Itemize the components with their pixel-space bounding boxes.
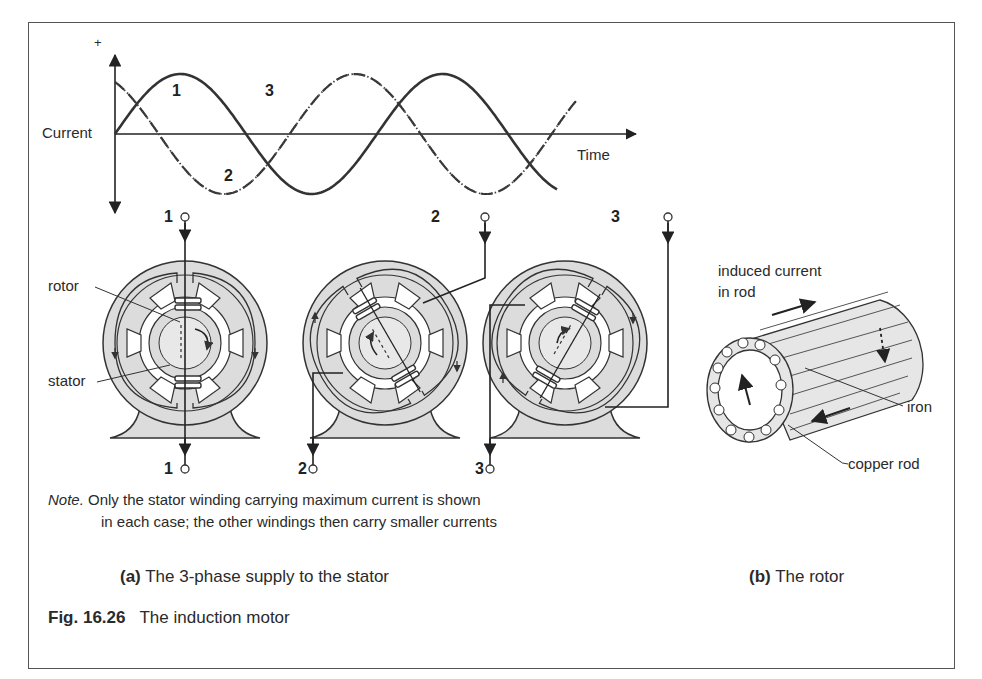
terminal-1-top: 1: [164, 208, 173, 226]
curve-label-1: 1: [172, 82, 181, 100]
terminal-2-top: 2: [431, 208, 440, 226]
stator-label: stator: [48, 372, 86, 389]
note-prefix: Note.: [48, 491, 84, 508]
note-line2: in each case; the other windings then ca…: [48, 511, 497, 533]
caption-b: (b) The rotor: [749, 567, 844, 587]
figure-number: Fig. 16.26: [48, 608, 125, 627]
rotor-cylinder: [707, 292, 923, 464]
rotor-label: rotor: [48, 277, 79, 294]
caption-a-text: The 3-phase supply to the stator: [145, 567, 389, 586]
caption-a: (a) The 3-phase supply to the stator: [120, 567, 389, 587]
copper-rod-label: copper rod: [848, 455, 920, 472]
note-text: Note. Only the stator winding carrying m…: [48, 489, 497, 533]
curve-label-2: 2: [224, 167, 233, 185]
terminal-3-bottom: 3: [475, 460, 484, 478]
note-line1: Only the stator winding carrying maximum…: [88, 491, 481, 508]
terminal-1-bottom: 1: [164, 460, 173, 478]
caption-b-tag: (b): [749, 567, 771, 586]
motor-1: [103, 213, 267, 473]
iron-label: iron: [907, 398, 932, 415]
figure-caption: Fig. 16.26The induction motor: [48, 608, 290, 628]
terminal-3-top: 3: [611, 208, 620, 226]
induced-current-label-line1: induced current: [718, 262, 821, 279]
motor-2: [288, 213, 489, 473]
caption-b-text: The rotor: [775, 567, 844, 586]
x-axis-label: Time: [577, 146, 610, 163]
motor-3: [470, 213, 672, 473]
figure-title: The induction motor: [139, 608, 289, 627]
caption-a-tag: (a): [120, 567, 141, 586]
induced-current-label-line2: in rod: [718, 283, 756, 300]
y-plus-sign: +: [94, 35, 102, 50]
terminal-2-bottom: 2: [298, 460, 307, 478]
y-axis-label: Current: [42, 124, 92, 141]
curve-label-3: 3: [265, 82, 274, 100]
current-time-graph: [115, 55, 636, 213]
